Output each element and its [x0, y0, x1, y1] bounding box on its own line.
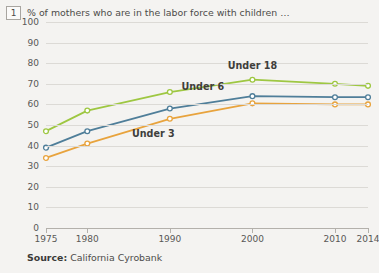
- line-under-3: [46, 103, 368, 158]
- y-tick-label-50: 50: [28, 120, 39, 130]
- marker-under-6-2000: [250, 94, 255, 99]
- series-label-under-6: Under 6: [181, 80, 224, 91]
- y-tick-label-60: 60: [28, 99, 39, 109]
- gridline-40: [46, 146, 368, 147]
- x-tick-label-1980: 1980: [76, 234, 99, 244]
- marker-under-18-1990: [167, 90, 172, 95]
- y-tick-label-40: 40: [28, 141, 39, 151]
- y-tick-label-20: 20: [28, 182, 39, 192]
- x-tick-label-2000: 2000: [241, 234, 264, 244]
- y-tick-label-10: 10: [28, 202, 39, 212]
- x-tick-mark-1980: [87, 228, 88, 233]
- marker-under-3-1975: [44, 156, 49, 161]
- y-tick-label-30: 30: [28, 161, 39, 171]
- y-tick-label-70: 70: [28, 79, 39, 89]
- gridline-30: [46, 166, 368, 167]
- x-tick-label-1975: 1975: [35, 234, 58, 244]
- gridline-90: [46, 43, 368, 44]
- x-tick-mark-2010: [335, 228, 336, 233]
- y-tick-label-100: 100: [22, 17, 39, 27]
- marker-under-6-2014: [366, 95, 371, 100]
- marker-under-18-2000: [250, 77, 255, 82]
- marker-under-6-2010: [333, 95, 338, 100]
- source-label: Source:: [27, 252, 67, 263]
- x-tick-label-2014: 2014: [357, 234, 379, 244]
- x-tick-label-1990: 1990: [158, 234, 181, 244]
- marker-under-6-1990: [167, 106, 172, 111]
- x-tick-mark-2014: [368, 228, 369, 233]
- x-tick-label-2010: 2010: [324, 234, 347, 244]
- source-text: California Cyrobank: [70, 252, 162, 263]
- chart-area: 0102030405060708090100 19751980199020002…: [0, 22, 376, 244]
- gridline-60: [46, 104, 368, 105]
- marker-under-18-1975: [44, 129, 49, 134]
- gridline-20: [46, 187, 368, 188]
- x-tick-mark-1990: [170, 228, 171, 233]
- y-tick-label-90: 90: [28, 38, 39, 48]
- gridline-0: [46, 228, 368, 229]
- plot-region: 197519801990200020102014Under 18Under 6U…: [46, 22, 368, 228]
- y-axis: 0102030405060708090100: [0, 22, 46, 244]
- marker-under-6-1980: [85, 129, 90, 134]
- x-tick-mark-2000: [252, 228, 253, 233]
- marker-under-3-1990: [167, 116, 172, 121]
- note-number-icon: 1: [6, 6, 21, 20]
- series-label-under-18: Under 18: [228, 60, 277, 71]
- gridline-10: [46, 207, 368, 208]
- x-tick-mark-1975: [46, 228, 47, 233]
- series-label-under-3: Under 3: [132, 128, 175, 139]
- gridline-80: [46, 63, 368, 64]
- gridline-50: [46, 125, 368, 126]
- source-note: Source: California Cyrobank: [27, 252, 162, 263]
- y-tick-label-80: 80: [28, 58, 39, 68]
- chart-headline: % of mothers who are in the labor force …: [27, 6, 290, 19]
- gridline-100: [46, 22, 368, 23]
- y-tick-label-0: 0: [33, 223, 39, 233]
- marker-under-18-1980: [85, 108, 90, 113]
